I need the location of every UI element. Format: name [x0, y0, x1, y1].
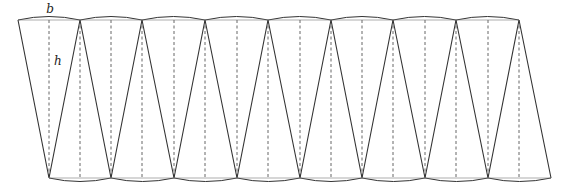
height-label: h	[54, 54, 62, 68]
sector-edges	[18, 20, 551, 178]
bottom-arc	[49, 178, 111, 182]
bottom-arc	[488, 178, 551, 182]
bottom-arcs	[49, 178, 551, 182]
bottom-arc	[237, 178, 300, 182]
top-arc	[18, 17, 80, 21]
base-label: b	[46, 2, 54, 16]
bottom-arc	[425, 178, 488, 182]
sector-zigzag-line	[18, 20, 551, 178]
top-arc	[393, 17, 456, 21]
cone-sectors-diagram: b h	[0, 0, 562, 194]
bottom-arc	[362, 178, 425, 182]
top-arc	[142, 17, 205, 21]
top-arcs	[18, 17, 519, 21]
bottom-arc	[300, 178, 362, 182]
top-arc	[80, 17, 142, 21]
bottom-arc	[111, 178, 174, 182]
top-arc	[456, 17, 519, 21]
top-arc	[331, 17, 393, 21]
top-arc	[205, 17, 268, 21]
bottom-arc	[174, 178, 237, 182]
top-arc	[268, 17, 331, 21]
